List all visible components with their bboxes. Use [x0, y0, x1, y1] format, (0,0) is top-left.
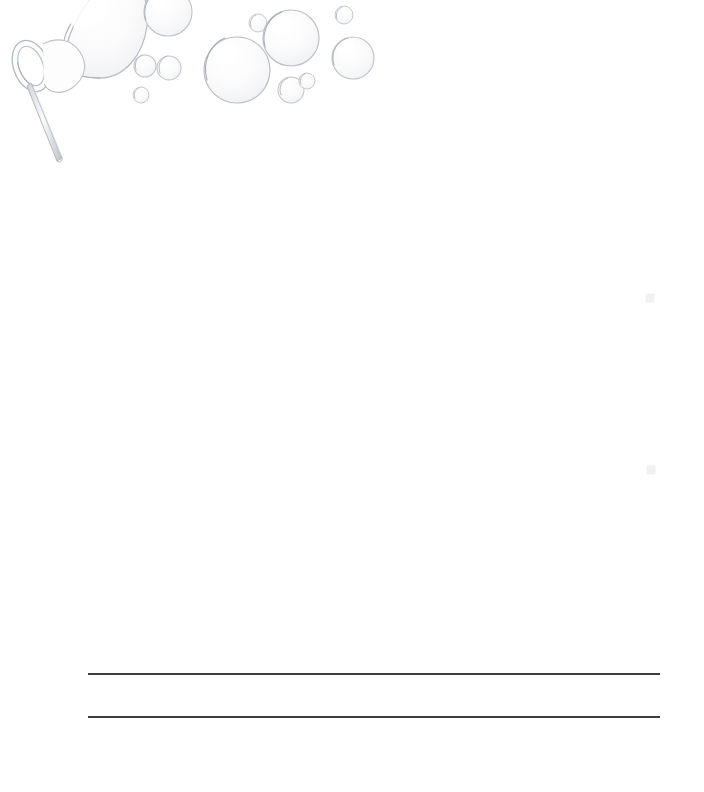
writing-line-2 — [88, 716, 660, 718]
writing-lines — [0, 0, 704, 792]
stationery-page: Bubble Wand Stationery — [0, 0, 704, 792]
writing-line-1 — [88, 673, 660, 675]
